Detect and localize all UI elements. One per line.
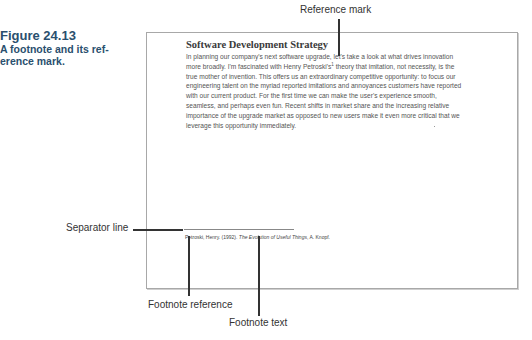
- footnote-plain-text: Petroski, Henry. (1992).: [185, 234, 239, 240]
- body-line: leverage this opportunity immediately.: [186, 121, 506, 131]
- body-line: importance of the upgrade market as oppo…: [186, 111, 506, 121]
- callout-footnote-text-label: Footnote text: [229, 317, 287, 328]
- figure-number: Figure 24.13: [0, 29, 130, 43]
- body-line: more broadly. I'm fascinated with Henry …: [186, 62, 506, 72]
- figure-caption-text: A footnote and its ref- erence mark.: [0, 43, 122, 67]
- body-line: engineering talent on the myriad reporte…: [186, 81, 506, 91]
- callout-separator-line-leader: [133, 229, 183, 231]
- document-page: Software Development Strategy In plannin…: [146, 32, 518, 289]
- body-line: true mother of invention. This offers us…: [186, 72, 506, 82]
- document-body: In planning our company's next software …: [186, 52, 506, 130]
- callout-footnote-reference-leader: [188, 236, 190, 296]
- callout-reference-mark-label: Reference mark: [300, 4, 371, 15]
- callout-footnote-text-leader: [258, 236, 260, 316]
- callout-separator-line-label: Separator line: [66, 222, 128, 233]
- footnote-book-title: The Evolution of Useful Things: [239, 234, 307, 240]
- body-line: seamless, and perhaps even fun. Recent s…: [186, 101, 506, 111]
- stray-dot: [434, 126, 435, 127]
- footnote-tail: , A. Knopf.: [307, 234, 330, 240]
- body-line: with our current product. For the first …: [186, 91, 506, 101]
- figure-caption: Figure 24.13 A footnote and its ref- ere…: [0, 29, 130, 67]
- document-title: Software Development Strategy: [186, 39, 328, 50]
- callout-reference-mark-leader: [338, 19, 340, 56]
- footnote-separator-line: [184, 229, 294, 230]
- body-line: In planning our company's next software …: [186, 52, 506, 62]
- callout-footnote-reference-label: Footnote reference: [148, 299, 233, 310]
